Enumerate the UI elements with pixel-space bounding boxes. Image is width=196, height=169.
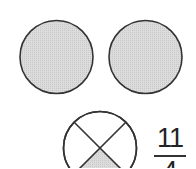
shaded-circle-2: [109, 21, 182, 94]
shaded-circle-1: [20, 21, 93, 94]
fraction-label: 11 4: [152, 124, 188, 168]
fraction-numerator: 11: [152, 124, 188, 152]
quartered-circle: [60, 112, 140, 169]
fraction-denominator: 4: [152, 157, 188, 168]
